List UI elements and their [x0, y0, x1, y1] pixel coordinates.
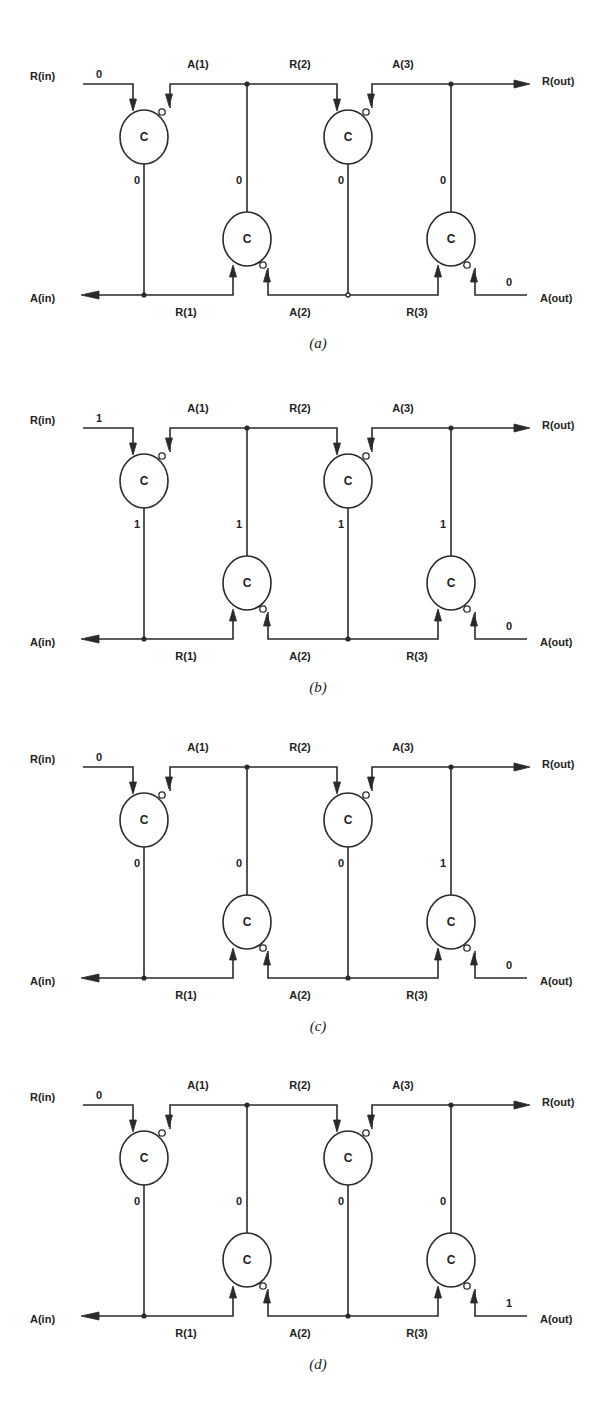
value-vertical-3: 0	[338, 1195, 344, 1207]
wire-r-in	[83, 84, 133, 109]
arrow-up-icon	[435, 265, 442, 277]
inverter-bubble-icon	[464, 262, 470, 268]
value-a-out: 0	[506, 959, 512, 971]
c-element-gate-1: C	[120, 792, 168, 847]
wire-a-out	[475, 612, 527, 639]
inverter-bubble-icon	[363, 1130, 369, 1136]
label-a2: A(2)	[289, 306, 311, 318]
label-r2: R(2)	[289, 402, 311, 414]
value-vertical-2: 1	[236, 518, 242, 530]
value-vertical-2: 0	[236, 174, 242, 186]
arrow-up-icon	[230, 948, 237, 960]
inverter-bubble-icon	[260, 606, 266, 612]
value-vertical-4: 0	[440, 174, 446, 186]
panel-c: CCCCR(in)A(in)R(out)A(out)A(1)R(2)A(3)R(…	[30, 741, 575, 1035]
arrow-up-icon	[264, 953, 271, 965]
label-a-out: A(out)	[540, 292, 573, 304]
value-a-out: 1	[506, 1297, 512, 1309]
label-r-out: R(out)	[542, 758, 575, 770]
arrow-down-icon	[368, 1115, 375, 1127]
arrow-down-icon	[368, 777, 375, 789]
c-element-gate-3: C	[324, 453, 372, 508]
value-vertical-4: 1	[440, 518, 446, 530]
value-vertical-2: 0	[236, 1195, 242, 1207]
label-a3: A(3)	[392, 741, 414, 753]
arrow-left-icon	[81, 291, 99, 299]
wire-r-in	[83, 767, 133, 792]
inverter-bubble-icon	[260, 1283, 266, 1289]
junction-dot	[345, 975, 350, 980]
arrow-up-icon	[264, 1291, 271, 1303]
wire-a2-r3	[268, 267, 438, 295]
inverter-bubble-icon	[159, 1130, 165, 1136]
label-a2: A(2)	[289, 650, 311, 662]
wire-r-in	[83, 428, 133, 453]
label-r-in: R(in)	[30, 1091, 55, 1103]
panel-d: CCCCR(in)A(in)R(out)A(out)A(1)R(2)A(3)R(…	[30, 1079, 575, 1373]
junction-dot	[141, 292, 146, 297]
inverter-bubble-icon	[363, 109, 369, 115]
arrow-up-icon	[230, 609, 237, 621]
c-element-gate-2: C	[223, 212, 271, 268]
gate-label: C	[243, 1253, 252, 1267]
wire-a1-r2	[170, 84, 337, 109]
inverter-bubble-icon	[363, 792, 369, 798]
inverter-bubble-icon	[464, 945, 470, 951]
junction-dot	[141, 636, 146, 641]
gate-label: C	[243, 915, 252, 929]
inverter-bubble-icon	[260, 262, 266, 268]
wire-a2-r3	[268, 950, 438, 978]
arrow-up-icon	[230, 1286, 237, 1298]
arrow-down-icon	[130, 99, 137, 111]
arrow-down-icon	[368, 438, 375, 450]
wire-a1-r2	[170, 767, 337, 792]
value-r-in: 0	[96, 751, 102, 763]
label-a3: A(3)	[392, 58, 414, 70]
arrow-left-icon	[81, 635, 99, 643]
arrow-up-icon	[435, 1286, 442, 1298]
label-a1: A(1)	[187, 1079, 209, 1091]
label-a-out: A(out)	[540, 636, 573, 648]
gate-label: C	[243, 576, 252, 590]
wire-r1	[97, 611, 233, 639]
junction-dot	[141, 975, 146, 980]
value-r-in: 0	[96, 1089, 102, 1101]
value-vertical-3: 1	[338, 518, 344, 530]
gate-label: C	[140, 474, 149, 488]
arrow-up-icon	[471, 1291, 478, 1303]
inverter-bubble-icon	[159, 453, 165, 459]
value-vertical-1: 1	[134, 518, 140, 530]
arrow-left-icon	[81, 1312, 99, 1320]
wire-a3-r-out	[372, 1105, 516, 1129]
gate-label: C	[344, 474, 353, 488]
wire-a-out	[475, 951, 527, 978]
wire-a3-r-out	[372, 767, 516, 791]
inverter-bubble-icon	[363, 453, 369, 459]
c-element-gate-3: C	[324, 792, 372, 847]
arrow-down-icon	[166, 1115, 173, 1127]
wire-r1	[97, 1288, 233, 1316]
wire-r1	[97, 267, 233, 295]
junction-dot	[346, 293, 350, 297]
panel-a: CCCCR(in)A(in)R(out)A(out)A(1)R(2)A(3)R(…	[30, 58, 575, 352]
wire-a3-r-out	[372, 428, 516, 452]
gate-label: C	[344, 813, 353, 827]
arrow-down-icon	[368, 94, 375, 106]
wire-a-out	[475, 1289, 527, 1316]
arrow-down-icon	[130, 443, 137, 455]
panel-b: CCCCR(in)A(in)R(out)A(out)A(1)R(2)A(3)R(…	[30, 402, 575, 696]
c-element-gate-3: C	[324, 1130, 372, 1185]
wire-a2-r3	[268, 611, 438, 639]
label-r2: R(2)	[289, 58, 311, 70]
label-r3: R(3)	[406, 306, 428, 318]
label-r3: R(3)	[406, 989, 428, 1001]
wire-a2-r3	[268, 1288, 438, 1316]
gate-label: C	[447, 576, 456, 590]
label-a1: A(1)	[187, 741, 209, 753]
arrow-right-icon	[514, 763, 530, 771]
panel-caption: (b)	[309, 679, 327, 696]
c-element-gate-3: C	[324, 109, 372, 164]
label-r-in: R(in)	[30, 70, 55, 82]
junction-dot	[345, 636, 350, 641]
label-r-in: R(in)	[30, 753, 55, 765]
